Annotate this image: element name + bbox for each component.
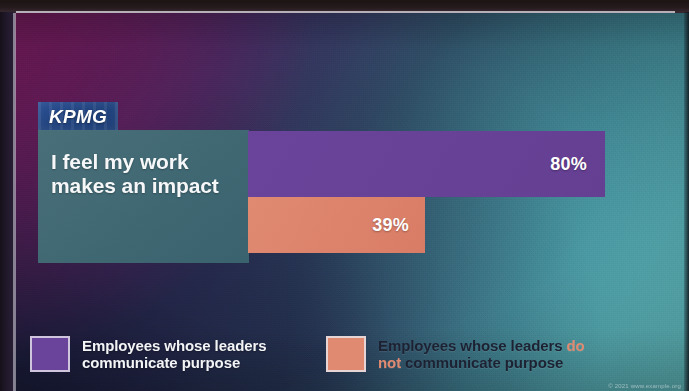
chart-slide: KPMG I feel my work makes an impact 80% … xyxy=(0,0,689,391)
bar-value-80: 80% xyxy=(550,154,587,175)
kpmg-logo: KPMG xyxy=(38,102,118,131)
question-label: I feel my work makes an impact xyxy=(51,150,241,197)
slide-frame-left-highlight xyxy=(13,13,16,391)
legend-label-communicate-purpose: Employees whose leaders communicate purp… xyxy=(82,336,266,372)
legend-label-do-not-communicate-purpose: Employees whose leaders do not communica… xyxy=(378,336,585,372)
bar-do-not-communicate-purpose: 39% xyxy=(248,197,425,253)
bar-value-39: 39% xyxy=(372,215,409,236)
legend-swatch-purple xyxy=(30,336,70,372)
slide-frame-top-highlight xyxy=(16,11,675,13)
legend-item-do-not-communicate-purpose: Employees whose leaders do not communica… xyxy=(326,336,585,372)
legend-label-part-after: communicate purpose xyxy=(401,354,563,371)
kpmg-logo-text: KPMG xyxy=(49,107,107,126)
copyright-notice: © 2021 www.example.org xyxy=(608,383,681,389)
legend-item-communicate-purpose: Employees whose leaders communicate purp… xyxy=(30,336,266,372)
legend-swatch-orange xyxy=(326,336,366,372)
slide-frame-right-edge xyxy=(684,12,689,391)
bar-communicate-purpose: 80% xyxy=(248,131,605,197)
question-panel: I feel my work makes an impact xyxy=(38,130,249,263)
legend-label-part-before: Employees whose leaders xyxy=(378,337,567,354)
